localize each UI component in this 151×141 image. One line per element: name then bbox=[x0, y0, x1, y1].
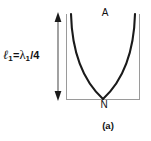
node-label: N bbox=[97, 99, 111, 110]
pipe-length-label: ℓ1=λ1/4 bbox=[3, 47, 53, 64]
wave-curve-left bbox=[71, 14, 103, 99]
figure-graphic bbox=[0, 0, 151, 141]
measure-arrowhead-bottom bbox=[55, 91, 62, 101]
length-measure-arrow bbox=[55, 12, 62, 101]
resonance-figure: ℓ1=λ1/4 A N (a) bbox=[0, 0, 151, 141]
figure-caption: (a) bbox=[93, 120, 123, 131]
denominator-four: 4 bbox=[33, 49, 39, 61]
antinode-label: A bbox=[98, 7, 112, 18]
measure-arrowhead-top bbox=[55, 12, 62, 22]
wave-curve-right bbox=[103, 14, 135, 99]
standing-wave-curve bbox=[71, 14, 135, 99]
